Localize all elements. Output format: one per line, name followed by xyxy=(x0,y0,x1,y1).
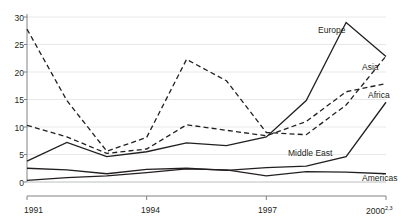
y-tick-label-25: 25 xyxy=(2,40,24,50)
series-line-europe xyxy=(27,23,386,162)
series-line-africa xyxy=(27,84,386,154)
series-line-americas xyxy=(27,169,386,181)
x-tick-label-1997: 1997 xyxy=(258,205,277,215)
series-label-europe: Europe xyxy=(318,25,345,35)
series-label-asia: Asia xyxy=(362,62,379,72)
y-tick-label-15: 15 xyxy=(2,95,24,105)
x-tick-label-2000: 20002,3 xyxy=(366,205,393,216)
y-tick-label-20: 20 xyxy=(2,68,24,78)
plot-area xyxy=(0,0,414,224)
x-tick-label-2000-text: 2000 xyxy=(366,206,385,216)
x-tick-footnote-marker: 2,3 xyxy=(385,205,393,211)
y-tick-label-10: 10 xyxy=(2,123,24,133)
series-line-middle-east xyxy=(27,102,386,174)
y-tick-label-30: 30 xyxy=(2,13,24,23)
series-line-asia xyxy=(27,29,386,151)
y-tick-label-0: 0 xyxy=(2,178,24,188)
x-tick-label-1994: 1994 xyxy=(141,205,160,215)
x-tick-label-1991: 1991 xyxy=(24,205,43,215)
series-label-middle-east: Middle East xyxy=(288,148,332,158)
line-chart: 30 25 20 15 10 5 0 1991 1994 1997 20002,… xyxy=(0,0,414,224)
y-tick-label-5: 5 xyxy=(2,150,24,160)
series-label-africa: Africa xyxy=(368,90,390,100)
series-label-americas: Americas xyxy=(362,173,397,183)
